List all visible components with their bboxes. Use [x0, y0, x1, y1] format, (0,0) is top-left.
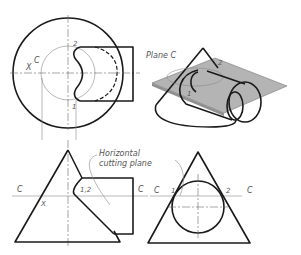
label-2: 2	[226, 187, 231, 195]
annotation-line1: Horizontal	[99, 149, 141, 158]
front-view: Horizontal cutting plane C C X 1,2	[12, 140, 152, 248]
plane-c-label: Plane C	[146, 51, 176, 60]
label-c-left: C	[17, 185, 23, 194]
cone-triangle	[148, 152, 250, 243]
top-view: X C 2 1	[10, 15, 140, 140]
label-1: 1	[72, 103, 76, 111]
hidden-intersection-curve	[95, 47, 117, 101]
cone-right-edge	[68, 150, 82, 178]
label-c: C	[34, 56, 40, 65]
label-c-left: C	[154, 186, 160, 195]
intersection-curve	[74, 47, 83, 101]
annotation-line2: cutting plane	[99, 159, 152, 168]
label-1: 1	[171, 187, 175, 195]
label-x: X	[40, 200, 46, 208]
label-x: X	[25, 63, 32, 72]
side-view: C C 1 2	[148, 152, 253, 243]
label-1-2: 1,2	[80, 186, 92, 194]
technical-drawing: X C 2 1 Plane C 2 1 Ho	[0, 0, 301, 255]
label-c-right: C	[138, 185, 144, 194]
pictorial-view: Plane C 2 1	[146, 48, 287, 127]
label-c-right: C	[247, 186, 253, 195]
label-1: 1	[187, 90, 191, 98]
label-2: 2	[218, 59, 223, 67]
label-2: 2	[73, 40, 78, 48]
